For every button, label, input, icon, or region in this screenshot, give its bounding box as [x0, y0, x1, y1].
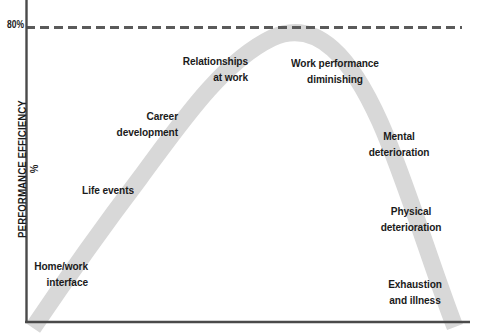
chart-canvas: 80% PERFORMANCE EFFICIENCY % Home/work i… — [0, 0, 480, 336]
annotation-home-work-interface: Home/work interface — [11, 258, 88, 290]
annotation-career-development: Career development — [21, 108, 178, 140]
annotation-work-performance-diminishing: Work performance diminishing — [283, 55, 387, 87]
annotation-mental-deterioration: Mental deterioration — [347, 128, 451, 160]
annotation-physical-deterioration: Physical deterioration — [359, 203, 463, 235]
annotation-exhaustion-and-illness: Exhaustion and illness — [365, 276, 465, 308]
y-axis-tick-label-80: 80% — [4, 19, 24, 30]
annotation-life-events: Life events — [16, 182, 134, 198]
annotation-relationships-at-work: Relationships at work — [30, 53, 248, 85]
